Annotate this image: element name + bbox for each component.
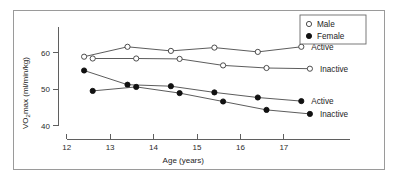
series-line-male-active <box>84 47 301 57</box>
data-point-male-inactive <box>90 56 95 61</box>
data-point-male-inactive <box>221 63 226 68</box>
y-tick-label: 60 <box>41 49 50 58</box>
series-end-label-female-inactive: Inactive <box>320 110 349 119</box>
x-tick-label: 16 <box>236 143 245 152</box>
data-point-female-inactive <box>264 107 269 112</box>
data-point-female-inactive <box>307 111 312 116</box>
chart-canvas: 405060121314151617Age (years)VO2max (ml/… <box>14 11 384 169</box>
series-line-male-inactive <box>93 59 310 69</box>
figure-container: 405060121314151617Age (years)VO2max (ml/… <box>0 0 398 184</box>
data-point-male-active <box>82 54 87 59</box>
x-tick-label: 14 <box>149 143 158 152</box>
data-point-female-active <box>255 95 260 100</box>
data-point-male-active <box>168 48 173 53</box>
y-tick-label: 40 <box>41 122 50 131</box>
data-point-male-active <box>255 49 260 54</box>
legend-marker-female <box>306 33 311 38</box>
data-point-male-inactive <box>134 56 139 61</box>
data-point-female-inactive <box>221 99 226 104</box>
data-point-female-inactive <box>134 84 139 89</box>
legend-marker-male <box>306 21 311 26</box>
data-point-female-active <box>168 84 173 89</box>
data-point-male-inactive <box>177 56 182 61</box>
data-point-female-active <box>82 68 87 73</box>
data-point-male-active <box>299 44 304 49</box>
legend-label-male: Male <box>317 20 335 29</box>
series-end-label-female-active: Active <box>311 97 334 106</box>
data-point-female-inactive <box>177 91 182 96</box>
x-tick-label: 13 <box>106 143 115 152</box>
series-end-label-male-inactive: Inactive <box>320 65 349 74</box>
series-line-female-active <box>84 71 301 102</box>
data-point-female-active <box>212 90 217 95</box>
y-axis-title: VO2max (ml/min/kg) <box>21 57 31 129</box>
data-point-male-active <box>125 44 130 49</box>
legend-label-female: Female <box>317 32 345 41</box>
x-tick-label: 12 <box>62 143 71 152</box>
y-tick-label: 50 <box>41 85 50 94</box>
x-tick-label: 15 <box>193 143 202 152</box>
data-point-male-inactive <box>264 65 269 70</box>
data-point-male-inactive <box>307 66 312 71</box>
x-axis-title: Age (years) <box>163 156 205 165</box>
data-point-female-active <box>299 99 304 104</box>
data-point-female-inactive <box>90 88 95 93</box>
data-point-female-active <box>125 82 130 87</box>
x-tick-label: 17 <box>279 143 288 152</box>
figure-frame: 405060121314151617Age (years)VO2max (ml/… <box>13 10 385 170</box>
data-point-male-active <box>212 45 217 50</box>
